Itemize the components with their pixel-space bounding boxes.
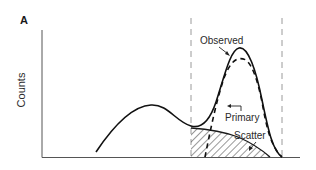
panel-label: A	[20, 14, 28, 26]
spectrum-figure: A Counts Observed Primary Scatter	[0, 0, 316, 170]
observed-label: Observed	[200, 35, 243, 46]
scatter-label: Scatter	[234, 130, 266, 141]
primary-arrow	[230, 106, 241, 111]
primary-label: Primary	[225, 112, 259, 123]
primary-arrowhead	[227, 104, 231, 108]
y-axis-label: Counts	[15, 72, 27, 107]
